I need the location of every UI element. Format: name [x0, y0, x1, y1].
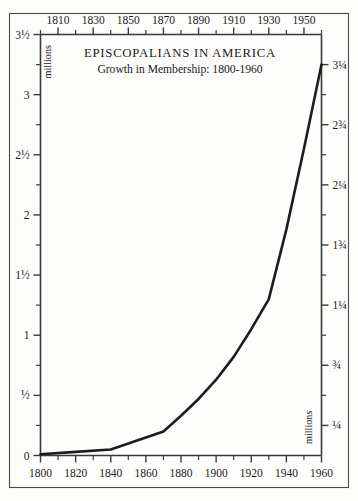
x-axis-top-tick-label: 1850: [117, 14, 140, 26]
chart-title: EPISCOPALIANS IN AMERICA: [84, 46, 276, 60]
x-axis-bottom-tick-label: 1900: [205, 467, 228, 479]
y-axis-right-tick-label: 2¾: [333, 119, 347, 131]
x-axis-top-tick-label: 1910: [222, 14, 245, 26]
x-axis-top-tick-label: 1870: [152, 14, 175, 26]
x-axis-bottom-tick-label: 1800: [29, 467, 52, 479]
y-axis-left-tick-label: ½: [21, 389, 30, 401]
y-axis-left-unit-label: millions: [42, 45, 53, 78]
y-axis-right-tick-label: 1¼: [333, 299, 348, 311]
y-axis-left-tick-label: 1½: [15, 269, 30, 281]
y-axis-right-tick-label: 1¾: [333, 239, 347, 251]
x-axis-bottom-tick-label: 1820: [64, 467, 87, 479]
chart-subtitle: Growth in Membership: 1800-1960: [97, 63, 262, 76]
y-axis-left-tick-label: 2: [24, 209, 30, 221]
y-axis-right-tick-label: 2¼: [333, 179, 348, 191]
x-axis-bottom-tick-label: 1880: [170, 467, 193, 479]
y-axis-right-unit-label: millions: [303, 411, 314, 444]
y-axis-left-tick-label: 1: [24, 329, 30, 341]
y-axis-right-tick-label: ¼: [333, 419, 342, 431]
x-axis-top-tick-label: 1930: [257, 14, 280, 26]
x-axis-bottom-tick-label: 1840: [99, 467, 122, 479]
x-axis-bottom-tick-label: 1920: [240, 467, 263, 479]
x-axis-top-tick-label: 1890: [187, 14, 210, 26]
x-axis-bottom-tick-label: 1960: [310, 467, 333, 479]
x-axis-bottom-tick-label: 1860: [134, 467, 157, 479]
x-axis-bottom-tick-label: 1940: [275, 467, 298, 479]
y-axis-left-tick-label: 3: [24, 89, 30, 101]
x-axis-top-tick-label: 1950: [292, 14, 315, 26]
y-axis-left-tick-label: 2½: [15, 149, 30, 161]
chart-figure: 1800182018401860188019001920194019601810…: [0, 0, 358, 501]
x-axis-top-tick-label: 1810: [47, 14, 70, 26]
episcopalians-line-chart: 1800182018401860188019001920194019601810…: [0, 0, 358, 501]
y-axis-right-tick-label: ¾: [333, 359, 342, 371]
x-axis-top-tick-label: 1830: [82, 14, 105, 26]
y-axis-left-tick-label: 0: [24, 450, 30, 462]
y-axis-right-tick-label: 3¼: [333, 59, 348, 71]
y-axis-left-tick-label: 3½: [15, 29, 30, 41]
